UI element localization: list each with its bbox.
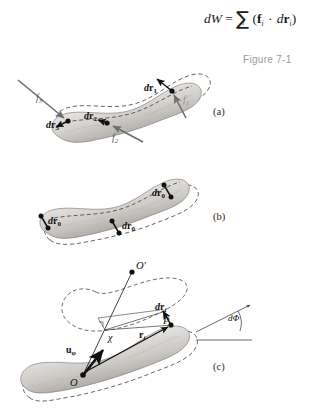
figure-container: dW = ∑ i (fi · dri) Figure 7-1 (a) (b) (… [0, 0, 334, 420]
label-dr1: dr1 [144, 83, 157, 95]
label-O: O [70, 378, 78, 389]
panel-letter-c: (c) [213, 361, 225, 372]
work-equation: dW = ∑ i (fi · dri) [175, 7, 325, 27]
equation-lhs: dW [204, 11, 222, 26]
equation-close-paren: ) [292, 11, 297, 26]
summation-index: i [242, 20, 244, 27]
panel-letter-a: (a) [213, 106, 225, 117]
figure-caption: Figure 7-1 [243, 54, 292, 65]
differential-d: d [277, 11, 284, 26]
label-u-phi: uφ [66, 345, 76, 357]
panel-c-construction-vertical [98, 318, 105, 330]
label-dr2: dr2 [84, 111, 97, 123]
label-d-phi: dΦ [228, 314, 239, 323]
label-chi: χ [108, 333, 112, 343]
panel-c-graphics [21, 269, 252, 401]
label-O-prime: O′ [136, 261, 146, 272]
panel-c-dphi-arm-upper [196, 305, 250, 332]
label-dr0-left: dr0 [48, 216, 61, 228]
label-dr0-middle: dr0 [122, 221, 135, 233]
label-f1: f1 [183, 96, 189, 107]
panel-c-point-O-prime [129, 269, 134, 274]
label-P-i: Pi [163, 316, 171, 328]
equation-equals: = [225, 11, 233, 26]
dot-product-operator: · [267, 11, 274, 26]
panel-c-body [21, 326, 190, 393]
label-f3: f3 [36, 94, 42, 105]
panel-b-graphics [39, 179, 199, 244]
label-f2: f2 [112, 134, 118, 145]
label-dr-i: dri [155, 302, 166, 314]
panel-b-body [40, 179, 189, 238]
panel-letter-b: (b) [213, 211, 225, 222]
force-subscript: i [261, 19, 263, 28]
label-dr3: dr3 [46, 120, 59, 132]
label-r-i: ri [139, 330, 145, 342]
label-dr0-right: dr0 [152, 188, 165, 200]
